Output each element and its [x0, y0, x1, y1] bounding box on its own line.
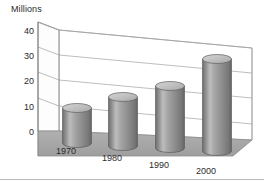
chart-svg	[0, 0, 264, 180]
bar-1970	[63, 104, 92, 148]
x-axis-label-2000: 2000	[196, 166, 216, 176]
bar-2000-top	[203, 55, 232, 64]
left-wall	[38, 22, 59, 131]
bar-1990-top	[156, 82, 185, 91]
x-axis-label-1990: 1990	[149, 160, 169, 170]
bar-1970-top	[63, 104, 92, 113]
bar-1980-body	[109, 97, 138, 151]
bar-2000-body	[203, 59, 232, 156]
bar-1970-body	[63, 108, 92, 148]
chart-container: Millions 40 30 20 10 0	[0, 0, 264, 180]
bar-1990	[156, 82, 185, 153]
plot-area	[0, 0, 264, 180]
bar-2000	[203, 55, 232, 156]
bar-1990-body	[156, 86, 185, 153]
bar-1980-top	[109, 93, 138, 102]
x-axis-label-1980: 1980	[102, 153, 122, 163]
x-axis-label-1970: 1970	[56, 146, 76, 156]
bar-1980	[109, 93, 138, 151]
